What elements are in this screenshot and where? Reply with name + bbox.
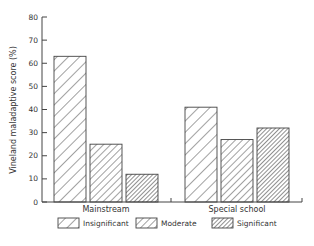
y-tick-label: 10 [28,174,38,183]
y-axis-title: Vineland maladaptive score (%) [9,46,18,174]
legend-label-moderate: Moderate [161,219,197,228]
y-tick-label: 80 [28,13,38,22]
y-tick-label: 50 [28,82,38,91]
y-tick-label: 30 [28,128,38,137]
bar-mainstream-moderate [90,144,122,202]
bar-special-school-moderate [221,140,253,202]
y-tick-label: 0 [33,198,38,207]
y-tick-label: 40 [28,105,38,114]
legend-label-insignificant: Insignificant [83,219,129,228]
y-axis: 01020304050607080 [28,13,47,207]
y-tick-label: 60 [28,59,38,68]
y-tick-label: 20 [28,151,38,160]
bars [54,56,289,202]
bar-chart: Vineland maladaptive score (%) 010203040… [0,0,314,246]
legend-swatch-moderate [136,218,157,228]
legend-swatch-significant [212,218,233,228]
legend: InsignificantModerateSignificant [58,218,277,228]
legend-label-significant: Significant [237,219,277,228]
y-tick-label: 70 [28,36,38,45]
x-category-label: Mainstream [82,205,129,214]
x-category-label: Special school [208,205,265,214]
bar-special-school-insignificant [185,107,217,202]
bar-mainstream-insignificant [54,56,86,202]
legend-swatch-insignificant [58,218,79,228]
bar-mainstream-significant [126,174,158,202]
bar-special-school-significant [257,128,289,202]
